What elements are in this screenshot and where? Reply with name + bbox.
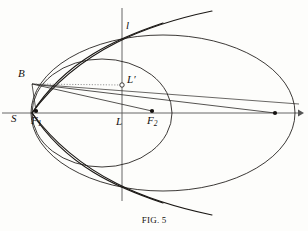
label-vertex-b: B [18,68,25,79]
figure-container: l B S F1 L F2 L′ FIG. 5 [0,0,308,231]
label-directrix-l: l [126,20,129,31]
label-focus-f1-subscript: 1 [38,119,42,128]
focal-rays-group [32,84,299,113]
figure-caption: FIG. 5 [0,209,308,227]
axis-arrowhead-icon [298,110,304,117]
ray-b-to-f2 [32,84,152,111]
caption-number: 5 [162,215,167,225]
focus-f3-marker [273,111,277,115]
label-point-lprime: L′ [127,74,136,85]
label-focus-f2: F2 [147,115,157,127]
focus-f2-marker [150,109,154,113]
label-foot-l: L [116,116,122,127]
label-focus-f1: F1 [31,115,41,127]
label-point-lprime-mark: ′ [133,73,135,85]
caption-prefix-smallcaps: IG. [147,215,160,225]
label-point-s: S [11,113,17,124]
label-focus-f2-letter: F [147,114,154,126]
focus-f1-marker [34,109,38,113]
ray-b-upper-chord [32,84,299,104]
ray-b-to-f3 [32,84,275,113]
label-focus-f2-subscript: 2 [154,119,158,128]
label-focus-f1-letter: F [31,114,38,126]
point-lprime-marker [120,83,124,87]
